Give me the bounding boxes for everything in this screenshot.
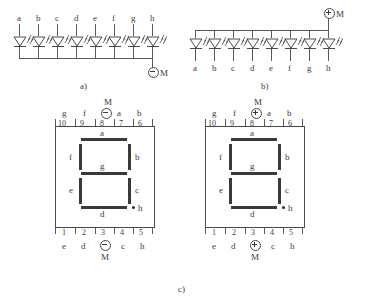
display-left-top-pin-label-f: f: [83, 109, 86, 118]
display-left-pin-tick: [114, 119, 115, 126]
display-right-pin-tick: [245, 227, 246, 234]
diagram-a-pin-label-h: h: [150, 14, 155, 23]
display-left-bottom-pin-number-2: 2: [82, 229, 86, 237]
diagram-a-lead-bot-7: [133, 47, 134, 58]
display-left-segment-label-d: d: [100, 210, 105, 219]
led-diode-icon: [321, 37, 343, 57]
diagram-a-pin-label-b: b: [36, 14, 41, 23]
display-right-pin-tick: [264, 227, 265, 234]
diagram-a-pin-label-a: a: [17, 14, 21, 23]
seven-segment-common-cathode: M g f a b 10 9 8 7 6 a f b g e c d h 1 2…: [55, 98, 180, 278]
terminal-minus-icon: [100, 240, 111, 251]
display-right-pin-tick: [205, 119, 206, 126]
diagram-a-lead-bot-5: [95, 47, 96, 58]
display-left-bottom-pin-number-5: 5: [139, 229, 143, 237]
display-left-top-pin-label-g: g: [62, 109, 67, 118]
display-left-segment-c: [128, 178, 131, 204]
display-left-decimal-point-label: h: [138, 204, 143, 213]
display-left-pin-tick: [133, 227, 134, 234]
diagram-a-lead-bot-3: [57, 47, 58, 58]
display-right-pin-tick: [225, 227, 226, 234]
display-right-bottom-terminal-label: M: [251, 253, 259, 262]
display-right-bottom-pin-label-d: d: [231, 242, 236, 251]
terminal-plus-icon: [250, 240, 261, 251]
diagram-b-lead-bot-2: [214, 49, 215, 61]
diagram-b-lead-bot-7: [309, 49, 310, 61]
display-right-segment-label-a: a: [250, 129, 254, 138]
display-left-bottom-pin-label-d: d: [81, 242, 86, 251]
display-right-bottom-pin-number-4: 4: [270, 229, 274, 237]
diagram-b-lead-bot-4: [252, 49, 253, 61]
diagram-b-pin-label-a: a: [193, 64, 197, 73]
diagram-b-lead-bot-5: [271, 49, 272, 61]
diagram-a-lead-bot-6: [114, 47, 115, 58]
display-right-decimal-point-label: h: [288, 204, 293, 213]
display-left-bottom-pin-number-1: 1: [62, 229, 66, 237]
display-right-pin-tick: [302, 227, 303, 234]
caption-c: c): [178, 285, 185, 294]
display-left-bottom-pin-label-e: e: [62, 242, 66, 251]
diagram-a-common-rail: [19, 58, 153, 59]
display-right-segment-label-b: b: [285, 153, 290, 162]
terminal-plus-icon: [324, 8, 335, 19]
display-left-pin-tick: [114, 227, 115, 234]
display-left-pin-tick: [133, 119, 134, 126]
display-left-segment-f: [79, 144, 82, 170]
display-left-top-terminal-label: M: [104, 98, 112, 107]
diagram-a-pin-label-e: e: [93, 14, 97, 23]
diagram-a-pin-label-g: g: [131, 14, 136, 23]
diagram-b-terminal-label: M: [336, 10, 344, 19]
diagram-b-common-anode: M: [183, 0, 365, 95]
display-right-bottom-pin-label-e: e: [212, 242, 216, 251]
display-right-segment-label-d: d: [250, 210, 255, 219]
display-right-pin-tick: [245, 119, 246, 126]
display-left-segment-label-g: g: [100, 162, 105, 171]
terminal-minus-icon: [101, 108, 112, 119]
display-right-segment-g: [231, 172, 277, 175]
display-right-pin-tick: [205, 227, 206, 234]
display-left-pin-tick: [152, 119, 153, 126]
diagram-b-lead-bot-3: [233, 49, 234, 61]
display-left-pin-tick: [75, 227, 76, 234]
display-right-top-pin-label-f: f: [233, 109, 236, 118]
display-left-bottom-pin-label-h: h: [140, 242, 145, 251]
display-right-segment-f: [229, 144, 232, 170]
terminal-plus-icon: [251, 108, 262, 119]
diagram-b-pin-label-b: b: [212, 64, 217, 73]
display-left-pin-tick: [95, 119, 96, 126]
display-right-bottom-pin-label-h: h: [290, 242, 295, 251]
diagram-a-pin-label-c: c: [55, 14, 59, 23]
display-left-pin-tick: [55, 119, 56, 126]
diagram-a-pin-label-d: d: [74, 14, 79, 23]
display-right-pin-tick: [283, 227, 284, 234]
diagram-a-terminal-label: M: [160, 69, 168, 78]
diagram-a-lead-bot-1: [19, 47, 20, 58]
display-right-pin-tick: [302, 119, 303, 126]
display-right-segment-e: [229, 178, 232, 204]
diagram-b-lead-bot-1: [195, 49, 196, 61]
display-right-pin-tick: [225, 119, 226, 126]
display-left-bottom-pin-label-c: c: [121, 242, 125, 251]
display-right-bottom-pin-number-1: 1: [212, 229, 216, 237]
diagram-b-pin-label-d: d: [250, 64, 255, 73]
display-right-decimal-point: [282, 206, 285, 209]
display-right-segment-a: [231, 138, 277, 141]
terminal-minus-icon: [148, 67, 159, 78]
diagram-a-lead-bot-8: [152, 47, 153, 58]
diagram-b-pin-label-g: g: [307, 64, 312, 73]
display-right-segment-label-c: c: [285, 186, 289, 195]
display-right-bottom-pin-label-c: c: [271, 242, 275, 251]
display-right-pin-tick: [283, 119, 284, 126]
display-right-segment-label-f: f: [219, 153, 222, 162]
caption-a: a): [80, 82, 87, 91]
display-right-top-pin-label-b: b: [287, 109, 292, 118]
display-right-top-pin-label-g: g: [212, 109, 217, 118]
diagram-a-lead-bot-2: [38, 47, 39, 58]
diagram-a-common-cathode: a b c d e f g h: [0, 0, 183, 95]
display-right-segment-b: [278, 144, 281, 170]
display-left-top-pin-label-b: b: [137, 109, 142, 118]
diagram-b-pin-label-e: e: [269, 64, 273, 73]
display-left-segment-label-a: a: [100, 129, 104, 138]
display-left-segment-b: [128, 144, 131, 170]
display-right-bottom-pin-number-5: 5: [289, 229, 293, 237]
